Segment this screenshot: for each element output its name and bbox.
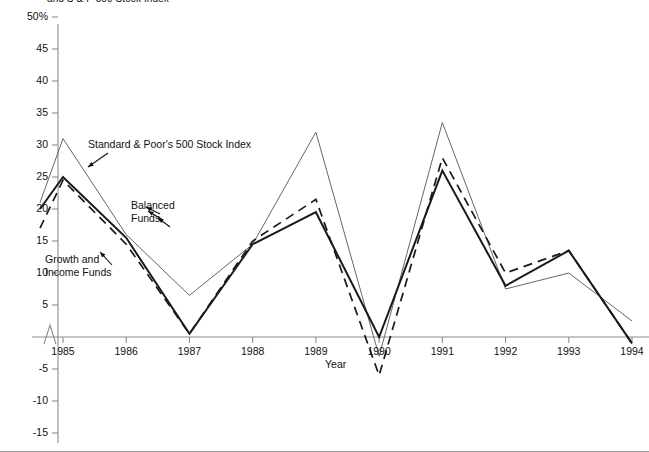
series-line-thin-solid: [40, 123, 632, 357]
x-tick-marks: [63, 337, 632, 343]
x-tick-label: 1986: [100, 345, 152, 357]
x-tick-label: 1985: [37, 345, 89, 357]
chart-figure: and S & P 500 Stock Index 50%45403530252…: [0, 0, 649, 452]
y-tick-marks: [52, 17, 58, 433]
axis-break-icon: [44, 325, 56, 344]
x-tick-label: 1989: [290, 345, 342, 357]
y-tick-label: 15: [4, 234, 48, 246]
y-tick-label: -15: [4, 426, 48, 438]
x-tick-label: 1987: [163, 345, 215, 357]
x-tick-label: 1990: [353, 345, 405, 357]
y-tick-label: 35: [4, 106, 48, 118]
chart-plot-area: [0, 0, 649, 452]
y-tick-label: -5: [4, 362, 48, 374]
annotation-sp500-label: Standard & Poor's 500 Stock Index: [88, 138, 251, 151]
annotation-balanced-funds-label: Balanced Funds: [131, 199, 175, 224]
y-tick-label: 45: [4, 42, 48, 54]
annotation-growth-income-label: Growth and Income Funds: [45, 253, 112, 278]
y-tick-label: 25: [4, 170, 48, 182]
x-tick-label: 1994: [606, 345, 649, 357]
x-tick-label: 1988: [227, 345, 279, 357]
y-tick-label: 10: [4, 266, 48, 278]
x-tick-label: 1991: [416, 345, 468, 357]
y-tick-label: 5: [4, 298, 48, 310]
x-tick-label: 1993: [543, 345, 595, 357]
series-line-dashed: [40, 158, 632, 376]
y-tick-label: -10: [4, 394, 48, 406]
leader-sp500-head: [88, 162, 94, 167]
y-tick-label: 20: [4, 202, 48, 214]
x-tick-label: 1992: [480, 345, 532, 357]
y-tick-label: 40: [4, 74, 48, 86]
y-tick-label: 50%: [4, 10, 48, 22]
x-axis-title: Year: [325, 358, 346, 370]
y-tick-label: 30: [4, 138, 48, 150]
